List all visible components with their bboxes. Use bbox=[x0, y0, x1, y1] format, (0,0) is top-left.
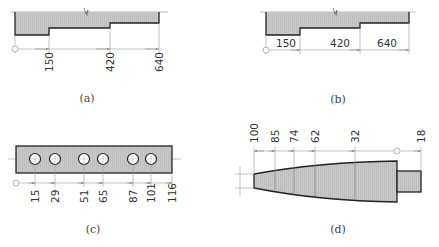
dim-label: 65 bbox=[97, 190, 109, 203]
dim-label: 640 bbox=[153, 52, 165, 72]
dim-label: 51 bbox=[78, 190, 90, 203]
caption-b: (b) bbox=[330, 93, 346, 106]
dim-label: 18 bbox=[415, 130, 427, 143]
dimensioning-diagram: 150 420 640 (a) 150 420 640 (b) bbox=[0, 0, 439, 247]
caption-a: (a) bbox=[79, 92, 94, 105]
dim-label: 100 bbox=[248, 123, 260, 143]
shaft-end-part bbox=[397, 171, 421, 192]
origin-circle-icon bbox=[13, 180, 19, 186]
origin-circle-icon bbox=[12, 46, 18, 52]
panel-a: 150 420 640 (a) bbox=[10, 8, 168, 105]
dim-label: 420 bbox=[330, 37, 350, 49]
dim-label: 62 bbox=[309, 130, 321, 143]
dim-label: 32 bbox=[349, 130, 361, 143]
dim-label: 420 bbox=[104, 52, 116, 72]
tapered-shaft-part bbox=[254, 161, 397, 202]
dim-label: 29 bbox=[49, 190, 61, 203]
dim-label: 640 bbox=[377, 37, 397, 49]
origin-circle-icon bbox=[394, 148, 400, 154]
caption-c: (c) bbox=[86, 223, 101, 236]
panel-c: 15 29 51 65 87 101 116 (c) bbox=[8, 146, 181, 236]
dim-label: 150 bbox=[43, 52, 55, 72]
dim-label: 87 bbox=[127, 190, 139, 203]
dim-label: 101 bbox=[145, 183, 157, 203]
panel-d: 100 85 74 62 32 18 (d) bbox=[235, 123, 427, 236]
dim-label: 74 bbox=[288, 129, 300, 143]
caption-d: (d) bbox=[330, 223, 346, 236]
origin-circle-icon bbox=[263, 47, 269, 53]
panel-b: 150 420 640 (b) bbox=[260, 8, 415, 106]
dim-label: 150 bbox=[276, 37, 296, 49]
dim-label: 85 bbox=[269, 130, 281, 143]
dim-label: 116 bbox=[166, 183, 178, 203]
dim-label: 15 bbox=[29, 190, 41, 203]
